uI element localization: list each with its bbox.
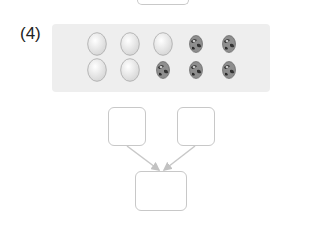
plain-egg-icon xyxy=(120,32,140,56)
spotted-egg-icon xyxy=(222,61,236,79)
plain-egg-icon xyxy=(87,58,107,82)
plain-egg-icon xyxy=(120,58,140,82)
spotted-egg-icon xyxy=(222,35,236,53)
answer-box-top-right[interactable] xyxy=(177,107,215,146)
arrow-left xyxy=(127,146,159,170)
spotted-egg-icon xyxy=(189,61,203,79)
plain-egg-icon xyxy=(87,32,107,56)
arrow-right xyxy=(164,146,195,170)
answer-box-top-left[interactable] xyxy=(108,107,146,146)
spotted-egg-icon xyxy=(156,61,170,79)
spotted-egg-icon xyxy=(189,35,203,53)
plain-egg-icon xyxy=(153,32,173,56)
answer-box-bottom[interactable] xyxy=(135,171,187,211)
